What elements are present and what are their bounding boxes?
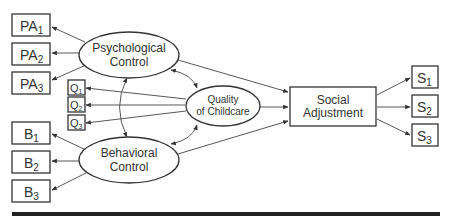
path-sa-s3	[377, 119, 410, 135]
indicator-pa3: PA3	[12, 72, 50, 94]
path-qc-q1	[86, 88, 186, 99]
indicator-b1: B1	[12, 122, 50, 144]
path-bc-b3	[52, 173, 86, 190]
indicator-pa1: PA1	[12, 14, 50, 36]
path-pc-pa3	[52, 65, 86, 80]
svg-text:Control: Control	[110, 160, 149, 174]
indicator-q2: Q2	[68, 97, 85, 112]
svg-text:Control: Control	[110, 55, 149, 69]
indicator-q1: Q1	[68, 80, 85, 95]
path-sa-s1	[377, 78, 410, 95]
cov-bc-qc	[171, 125, 197, 144]
svg-text:Adjustment: Adjustment	[303, 106, 364, 120]
indicator-s1: S1	[412, 66, 438, 88]
indicator-b3: B3	[12, 180, 50, 202]
indicator-pa2: PA2	[12, 43, 50, 65]
sem-diagram: PA1 PA2 PA3 Q1 Q2 Q3 B1 B2 B3 Psychologi…	[0, 0, 453, 222]
svg-text:Psychological: Psychological	[92, 41, 165, 55]
path-bc-b1	[52, 134, 86, 150]
construct-behavioral-control: Behavioral Control	[79, 137, 179, 183]
indicator-s3: S3	[412, 124, 438, 146]
svg-text:Behavioral: Behavioral	[101, 146, 158, 160]
indicator-b2: B2	[12, 151, 50, 173]
cov-pc-bc	[120, 78, 128, 137]
svg-text:Social: Social	[317, 93, 350, 107]
construct-quality-of-childcare: Quality of Childcare	[186, 86, 260, 126]
cov-pc-qc	[171, 70, 197, 88]
indicator-q3: Q3	[68, 115, 85, 130]
svg-text:of Childcare: of Childcare	[196, 106, 250, 117]
indicator-s2: S2	[412, 95, 438, 117]
construct-psychological-control: Psychological Control	[79, 32, 179, 78]
svg-text:Quality: Quality	[207, 94, 238, 105]
bottom-rule	[12, 212, 440, 216]
path-pc-pa1	[52, 27, 85, 42]
path-qc-q3	[86, 111, 186, 123]
outcome-social-adjustment: Social Adjustment	[290, 87, 376, 126]
